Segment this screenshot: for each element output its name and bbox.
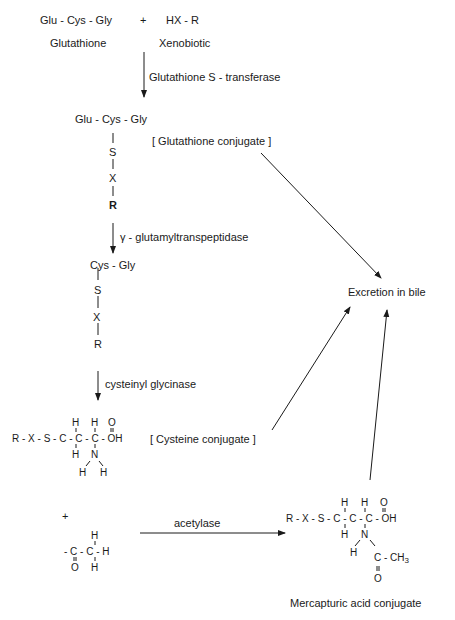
cysteine-conjugate-nh1: H xyxy=(79,467,86,479)
glutathione-conjugate-s: S xyxy=(109,146,116,158)
enzyme-gamma-glutamyltranspeptidase: γ - glutamyltranspeptidase xyxy=(120,231,248,243)
cysteine-conjugate-label: [ Cysteine conjugate ] xyxy=(150,433,256,445)
arrow-cysteine-to-bile xyxy=(272,307,350,430)
cysteine-conjugate-o: O xyxy=(108,417,116,429)
cysgly-conjugate-r: R xyxy=(94,338,102,350)
acetyl-o: O xyxy=(71,562,79,574)
plus-sign: + xyxy=(140,14,146,26)
mercapturic-label: Mercapturic acid conjugate xyxy=(290,597,421,609)
cysteine-conjugate-nh2: H xyxy=(100,467,107,479)
mercapturic-nh: H xyxy=(350,547,357,559)
glutathione-label: Glutathione xyxy=(50,37,106,49)
mercapturic-main: R - X - S - C - C - C - OH xyxy=(286,513,397,525)
mercapturic-acetyl: C - CH3 xyxy=(374,552,409,567)
diagram-arrows xyxy=(0,0,455,620)
arrow-mercapturic-to-bile xyxy=(370,310,387,480)
excretion-in-bile: Excretion in bile xyxy=(348,286,426,298)
glutathione-formula: Glu - Cys - Gly xyxy=(40,14,112,26)
mercapturic-n: N xyxy=(361,529,368,541)
mercapturic-acetyl-o: O xyxy=(374,573,382,585)
glutathione-conjugate-x: X xyxy=(109,172,116,184)
acetyl-h-top: H xyxy=(91,530,98,542)
cysteine-conjugate-h3: H xyxy=(72,449,79,461)
enzyme-cysteinyl-glycinase: cysteinyl glycinase xyxy=(105,378,196,390)
acetyl-plus: + xyxy=(62,510,68,522)
glutathione-conjugate-top: Glu - Cys - Gly xyxy=(75,113,147,125)
glutathione-conjugate-label: [ Glutathione conjugate ] xyxy=(152,135,271,147)
mercapturic-h3: H xyxy=(341,529,348,541)
arrow-glutathione-to-bile xyxy=(261,153,381,278)
glutathione-conjugate-r: R xyxy=(109,199,117,211)
cysteine-conjugate-n: N xyxy=(91,449,98,461)
enzyme-glutathione-s-transferase: Glutathione S - transferase xyxy=(149,71,280,83)
mercapturic-h1: H xyxy=(341,497,348,509)
xenobiotic-formula: HX - R xyxy=(166,14,199,26)
cysgly-conjugate-x: X xyxy=(93,311,100,323)
cysgly-conjugate-s: S xyxy=(94,284,101,296)
mercapturic-h2: H xyxy=(361,497,368,509)
acetyl-main: - C - C - H xyxy=(64,546,110,558)
cysteine-conjugate-main: R - X - S - C - C - C - OH xyxy=(12,433,123,445)
cysgly-conjugate-top: Cys - Gly xyxy=(90,259,135,271)
xenobiotic-label: Xenobiotic xyxy=(159,37,210,49)
acetyl-h-bottom: H xyxy=(91,562,98,574)
mercapturic-o: O xyxy=(380,497,388,509)
cysteine-conjugate-h2: H xyxy=(91,417,98,429)
cysteine-conjugate-h1: H xyxy=(72,417,79,429)
enzyme-acetylase: acetylase xyxy=(174,517,220,529)
